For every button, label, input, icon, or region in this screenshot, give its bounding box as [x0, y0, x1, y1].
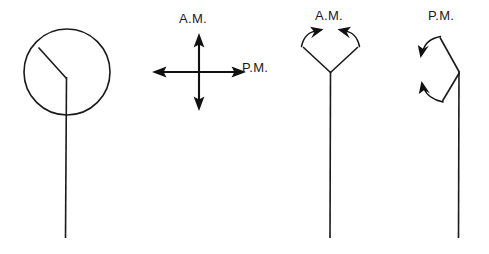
v-right-lower-arm — [443, 73, 460, 102]
v-right-upper-arm — [440, 38, 460, 73]
stem-line — [66, 77, 67, 238]
panel-v-up — [302, 27, 360, 238]
panel-arrow-cross — [152, 33, 246, 111]
panel-v-right — [418, 37, 460, 239]
diagram-drawing — [0, 0, 489, 254]
angle-line — [39, 48, 67, 79]
label-am-cross: A.M. — [179, 12, 207, 25]
v-right-stem — [459, 72, 460, 239]
panel-circle-with-angle — [24, 29, 110, 238]
curved-arrow-upper-head-icon — [418, 45, 429, 58]
label-am-v: A.M. — [315, 9, 343, 22]
v-up-right-arm — [331, 47, 359, 73]
label-pm-v: P.M. — [428, 9, 454, 22]
v-up-stem — [330, 72, 331, 239]
diagram-canvas: A.M. P.M. A.M. P.M. — [0, 0, 489, 254]
label-pm-cross: P.M. — [242, 61, 268, 74]
curved-arrow-lower-head-icon — [419, 81, 430, 94]
v-up-left-arm — [303, 47, 331, 73]
